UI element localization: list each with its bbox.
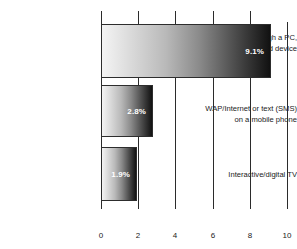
x-tick-label-10: 10 [283, 231, 292, 240]
tick-top-0 [101, 11, 102, 22]
x-tick-label-6: 6 [211, 231, 215, 240]
tick-bottom-0 [101, 205, 102, 209]
tick-top-8 [250, 11, 251, 22]
tick-bottom-2 [138, 205, 139, 209]
tick-bottom-8 [250, 205, 251, 209]
bar-wap-mobile: 2.8% [101, 85, 153, 137]
tick-top-2 [138, 11, 139, 22]
tick-bottom-10 [287, 205, 288, 209]
plot-area: 9.1% 2.8% 1.9% 0 2 4 6 8 10 percentage [101, 22, 288, 205]
bar-interactive-tv: 1.9% [101, 147, 137, 201]
tick-bottom-6 [213, 205, 214, 209]
x-tick-label-8: 8 [248, 231, 252, 240]
bar-value-internet-pc: 9.1% [245, 47, 264, 56]
bar-value-wap-mobile: 2.8% [127, 107, 146, 116]
x-tick-label-2: 2 [136, 231, 140, 240]
bar-chart: Internet through a PC, laptop or handhel… [0, 0, 297, 249]
tick-top-4 [175, 11, 176, 22]
axis-line-10 [287, 22, 288, 205]
x-tick-label-0: 0 [99, 231, 103, 240]
tick-top-6 [213, 11, 214, 22]
x-tick-label-4: 4 [173, 231, 177, 240]
bar-internet-pc: 9.1% [101, 24, 271, 78]
bar-value-interactive-tv: 1.9% [111, 170, 130, 179]
tick-bottom-4 [175, 205, 176, 209]
